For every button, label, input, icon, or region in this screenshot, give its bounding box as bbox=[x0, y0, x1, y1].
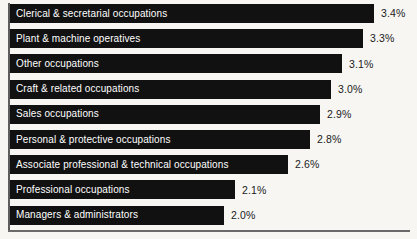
bar-value-label: 3.3% bbox=[370, 33, 394, 44]
bar-category-label: Managers & administrators bbox=[16, 210, 138, 220]
bar-category-label: Sales occupations bbox=[16, 109, 99, 119]
bar-row: Craft & related occupations 3.0% bbox=[10, 80, 362, 99]
bar-row: Other occupations 3.1% bbox=[10, 54, 373, 73]
bar-row: Plant & machine operatives 3.3% bbox=[10, 29, 394, 48]
bar: Other occupations bbox=[10, 54, 342, 73]
plot-area: Clerical & secretarial occupations 3.4% … bbox=[10, 4, 415, 230]
bar-value-label: 2.8% bbox=[317, 134, 341, 145]
bar-category-label: Plant & machine operatives bbox=[16, 34, 140, 44]
bar: Plant & machine operatives bbox=[10, 29, 363, 48]
bar: Professional occupations bbox=[10, 180, 235, 199]
bar-value-label: 2.1% bbox=[242, 185, 266, 196]
bar: Clerical & secretarial occupations bbox=[10, 4, 374, 23]
bar-row: Managers & administrators 2.0% bbox=[10, 206, 255, 225]
bar: Craft & related occupations bbox=[10, 80, 331, 99]
bar-row: Professional occupations 2.1% bbox=[10, 180, 266, 199]
bar-category-label: Clerical & secretarial occupations bbox=[16, 9, 167, 19]
bar-row: Clerical & secretarial occupations 3.4% bbox=[10, 4, 405, 23]
bar-category-label: Professional occupations bbox=[16, 185, 130, 195]
bar-category-label: Personal & protective occupations bbox=[16, 135, 171, 145]
bar-value-label: 2.9% bbox=[327, 109, 351, 120]
bar-chart: Clerical & secretarial occupations 3.4% … bbox=[0, 0, 417, 239]
bar: Associate professional & technical occup… bbox=[10, 155, 288, 174]
bar: Managers & administrators bbox=[10, 206, 224, 225]
bar: Sales occupations bbox=[10, 105, 320, 124]
bar-value-label: 2.0% bbox=[231, 210, 255, 221]
bar-category-label: Craft & related occupations bbox=[16, 84, 139, 94]
bar-value-label: 3.0% bbox=[338, 84, 362, 95]
x-axis-line bbox=[8, 230, 410, 232]
bar-row: Associate professional & technical occup… bbox=[10, 155, 319, 174]
bar-category-label: Other occupations bbox=[16, 59, 99, 69]
bar-row: Sales occupations 2.9% bbox=[10, 105, 351, 124]
bar: Personal & protective occupations bbox=[10, 130, 310, 149]
bar-value-label: 3.1% bbox=[349, 59, 373, 70]
bar-category-label: Associate professional & technical occup… bbox=[16, 160, 229, 170]
bar-value-label: 2.6% bbox=[295, 159, 319, 170]
bar-value-label: 3.4% bbox=[381, 8, 405, 19]
bar-row: Personal & protective occupations 2.8% bbox=[10, 130, 341, 149]
